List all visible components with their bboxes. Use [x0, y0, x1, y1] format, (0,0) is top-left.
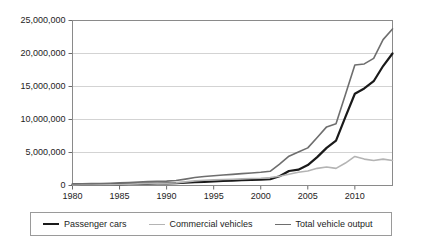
gridlines [73, 54, 393, 153]
y-axis-tick-label: 10,000,000 [0, 114, 66, 124]
legend-swatch-line-icon [149, 224, 165, 225]
data-series-group [73, 29, 393, 185]
y-axis-tick-label: 15,000,000 [0, 81, 66, 91]
legend-item-1[interactable]: Commercial vehicles [149, 219, 253, 229]
x-axis-tick-label: 1980 [53, 191, 93, 201]
x-axis-tick-label: 2000 [241, 191, 281, 201]
y-axis-tick-label: 5,000,000 [0, 147, 66, 157]
y-axis-tick-label: 20,000,000 [0, 48, 66, 58]
legend-item-0[interactable]: Passenger cars [43, 219, 127, 229]
plot-frame [73, 21, 393, 186]
chart-figure: 05,000,00010,000,00015,000,00020,000,000… [0, 0, 422, 246]
x-axis-tick-label: 1985 [100, 191, 140, 201]
y-axis-tick-label: 25,000,000 [0, 15, 66, 25]
legend-label: Passenger cars [64, 219, 127, 229]
x-axis-tick-label: 2005 [288, 191, 328, 201]
x-axis-tick-label: 2010 [335, 191, 375, 201]
legend-item-2[interactable]: Total vehicle output [275, 219, 373, 229]
x-axis-tick-label: 1995 [194, 191, 234, 201]
chart-legend: Passenger carsCommercial vehiclesTotal v… [30, 212, 392, 236]
x-axis-tick-label: 1990 [147, 191, 187, 201]
legend-swatch-line-icon [43, 223, 59, 225]
legend-swatch-line-icon [275, 224, 291, 225]
legend-label: Total vehicle output [296, 219, 373, 229]
y-axis-tick-label: 0 [0, 180, 66, 190]
series-line-2 [73, 29, 393, 184]
axis-ticks [69, 21, 355, 190]
legend-label: Commercial vehicles [170, 219, 253, 229]
